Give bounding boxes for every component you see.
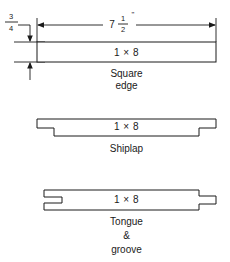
width-dimension-group: 7 1 2 " [37,10,216,42]
profile-square-edge: 1 × 8 Square edge [37,42,216,91]
width-numerator: 1 [121,14,125,23]
width-arrow-left [37,22,44,27]
width-denominator: 2 [121,25,125,34]
thickness-numerator: 3 [9,12,13,21]
tongue-and-groove-board-label: 1 × 8 [114,194,139,205]
shiplap-caption-line-1: Shiplap [110,143,144,154]
lumber-profiles-diagram: 3 4 7 1 [0,0,230,262]
width-inch-mark: " [132,10,135,19]
shiplap-board-label: 1 × 8 [114,121,139,132]
square-edge-caption-line-2: edge [115,80,138,91]
tongue-and-groove-caption-line-2: & [123,230,130,241]
profile-shiplap: 1 × 8 Shiplap [37,119,216,154]
thickness-denominator: 4 [9,24,13,33]
width-whole-number: 7 [109,19,115,30]
diagram-canvas: 3 4 7 1 [0,0,230,262]
thickness-arrow-up [27,62,33,69]
square-edge-caption-line-1: Square [110,68,143,79]
tongue-and-groove-caption-line-3: groove [111,244,142,255]
tongue-and-groove-caption-line-1: Tongue [110,216,143,227]
profile-tongue-and-groove: 1 × 8 Tongue & groove [44,190,216,255]
thickness-arrow-down [27,36,33,43]
square-edge-board-label: 1 × 8 [114,47,139,58]
width-arrow-right [209,22,216,27]
